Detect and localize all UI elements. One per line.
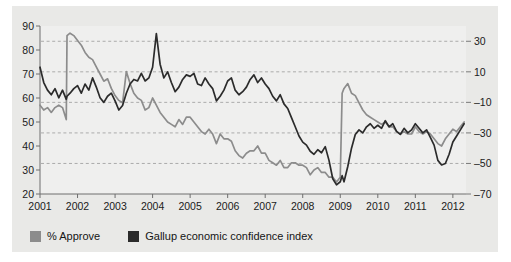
y-left-tick-label: 40: [10, 141, 34, 152]
series-line-confidence: [40, 34, 464, 185]
y-right-tick-label: –70: [474, 189, 492, 200]
x-tick-label: 2003: [98, 201, 132, 212]
chart-page: 2030405060708090–70–50–30–10103020012002…: [0, 0, 511, 262]
x-tick-label: 2011: [398, 201, 432, 212]
x-tick-label: 2009: [323, 201, 357, 212]
chart-legend: % Approve Gallup economic confidence ind…: [30, 231, 341, 242]
x-tick-label: 2008: [286, 201, 320, 212]
y-left-tick-label: 20: [10, 189, 34, 200]
x-tick-label: 2006: [211, 201, 245, 212]
legend-item-confidence[interactable]: Gallup economic confidence index: [128, 231, 313, 242]
x-tick-label: 2005: [173, 201, 207, 212]
y-right-tick-label: 10: [474, 67, 486, 78]
y-right-tick-label: 30: [474, 36, 486, 47]
legend-label-confidence: Gallup economic confidence index: [145, 231, 313, 242]
legend-label-approve: % Approve: [47, 231, 100, 242]
x-tick-label: 2001: [23, 201, 57, 212]
y-left-tick-label: 80: [10, 45, 34, 56]
legend-item-approve[interactable]: % Approve: [30, 231, 100, 242]
y-left-tick-label: 90: [10, 21, 34, 32]
y-right-tick-label: –50: [474, 158, 492, 169]
x-tick-label: 2004: [136, 201, 170, 212]
series-line-approve: [40, 33, 464, 182]
x-tick-label: 2002: [61, 201, 95, 212]
y-left-tick-label: 50: [10, 117, 34, 128]
y-right-tick-label: –30: [474, 128, 492, 139]
y-right-tick-label: –10: [474, 97, 492, 108]
legend-swatch-approve: [30, 231, 41, 242]
y-left-tick-label: 60: [10, 93, 34, 104]
legend-swatch-confidence: [128, 231, 139, 242]
y-left-tick-label: 70: [10, 69, 34, 80]
y-left-tick-label: 30: [10, 165, 34, 176]
x-tick-label: 2012: [436, 201, 470, 212]
dual-axis-line-chart: [0, 0, 511, 262]
x-tick-label: 2007: [248, 201, 282, 212]
x-tick-label: 2010: [361, 201, 395, 212]
